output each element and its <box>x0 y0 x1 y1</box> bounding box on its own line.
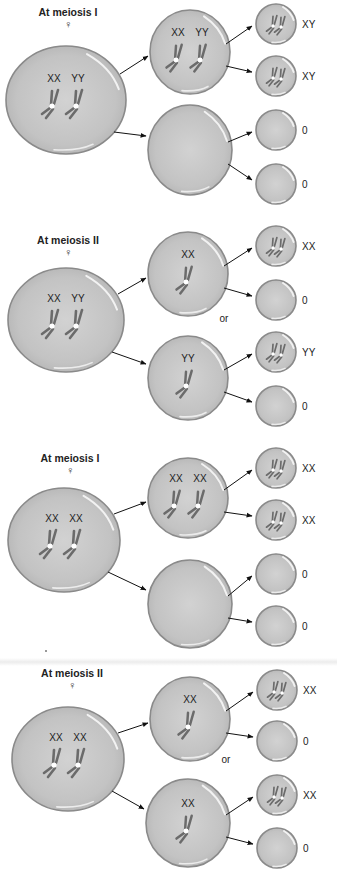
panel-divider <box>0 658 337 666</box>
daughter-cell <box>148 105 232 195</box>
arrow-icon <box>120 56 148 74</box>
arrow-icon <box>226 26 252 44</box>
arrow-icon <box>226 733 253 737</box>
chromosome-label: XX <box>183 694 197 705</box>
arrow-icon <box>118 723 148 733</box>
arrow-icon <box>108 572 146 590</box>
panel-4: At meiosis II♀XXXXXXXXXX0XX0or <box>0 655 337 870</box>
arrow-icon <box>114 132 146 136</box>
gamete-cell <box>256 4 296 44</box>
arrow-icon <box>118 278 146 294</box>
gamete-cell <box>257 670 297 710</box>
gamete-label: XX <box>302 463 316 474</box>
arrow-icon <box>228 164 252 180</box>
chromosome-label: XX <box>73 732 87 743</box>
gamete-label: YY <box>302 347 316 358</box>
daughter-cell <box>150 677 230 761</box>
chromosome-label: XX <box>181 798 195 809</box>
or-label: or <box>220 313 230 324</box>
gamete-cell <box>257 828 297 868</box>
gamete-label: 0 <box>303 736 309 747</box>
chromosome-label: XX <box>169 473 183 484</box>
parent-cell <box>6 46 126 154</box>
daughter-cell <box>148 458 228 538</box>
female-symbol-icon: ♀ <box>68 679 76 691</box>
gamete-cell <box>256 386 296 426</box>
chromosome-label: YY <box>71 73 85 84</box>
arrow-icon <box>226 66 252 72</box>
gamete-cell <box>257 721 297 761</box>
chromosome-label: XX <box>49 732 63 743</box>
gamete-label: XY <box>302 19 316 30</box>
arrow-icon <box>112 352 146 364</box>
daughter-cell <box>148 232 228 316</box>
female-symbol-icon: ♀ <box>66 464 74 476</box>
gamete-label: 0 <box>302 621 308 632</box>
panel-3: At meiosis I♀XXXXXXXXXXXX00 <box>0 440 337 655</box>
arrow-icon <box>224 288 252 296</box>
arrow-icon <box>224 470 252 490</box>
gamete-label: 0 <box>302 295 308 306</box>
arrow-icon <box>228 576 252 596</box>
female-symbol-icon: ♀ <box>64 246 72 258</box>
gamete-cell <box>256 554 296 594</box>
gamete-label: XX <box>303 790 317 801</box>
gamete-cell <box>256 500 296 540</box>
arrow-icon <box>224 354 252 370</box>
chromosome-label: YY <box>181 353 195 364</box>
arrow-icon <box>226 692 253 711</box>
parent-cell <box>12 707 124 811</box>
gamete-cell <box>256 56 296 96</box>
chromosome-label: XX <box>47 73 61 84</box>
arrow-icon <box>228 618 252 622</box>
female-symbol-icon: ♀ <box>64 18 72 30</box>
gamete-label: XY <box>302 71 316 82</box>
gamete-label: XX <box>302 515 316 526</box>
speck <box>45 650 47 652</box>
chromosome-label: XX <box>47 293 61 304</box>
gamete-cell <box>256 606 296 646</box>
gamete-cell <box>256 164 296 204</box>
gamete-cell <box>256 110 296 150</box>
gamete-label: 0 <box>302 125 308 136</box>
arrow-icon <box>112 791 144 809</box>
panel-title: At meiosis II <box>41 667 103 679</box>
arrow-icon <box>224 512 252 516</box>
chromosome-label: YY <box>195 27 209 38</box>
panel-title: At meiosis II <box>37 234 99 246</box>
gamete-cell <box>256 448 296 488</box>
gamete-label: 0 <box>302 569 308 580</box>
panel-title: At meiosis I <box>41 452 100 464</box>
parent-cell <box>8 268 124 372</box>
gamete-label: 0 <box>303 843 309 854</box>
chromosome-label: YY <box>71 293 85 304</box>
arrow-icon <box>224 248 252 266</box>
daughter-cell <box>148 560 232 648</box>
chromosome-label: XX <box>45 513 59 524</box>
gamete-label: XX <box>302 241 316 252</box>
gamete-label: XX <box>303 685 317 696</box>
panel-2: At meiosis II♀XXYYXXYYXX0YY0or <box>0 222 337 437</box>
gamete-cell <box>257 775 297 815</box>
or-label: or <box>222 754 232 765</box>
arrow-icon <box>224 392 252 402</box>
panel-title: At meiosis I <box>39 6 98 18</box>
arrow-icon <box>226 797 253 815</box>
chromosome-label: XX <box>181 249 195 260</box>
arrow-icon <box>226 837 253 844</box>
gamete-cell <box>256 226 296 266</box>
arrow-icon <box>228 132 252 142</box>
daughter-cell <box>148 336 228 420</box>
arrow-icon <box>114 502 146 514</box>
gamete-label: 0 <box>302 401 308 412</box>
parent-cell <box>8 488 120 592</box>
panel-1: At meiosis I♀XXYYXXYYXYXY00 <box>0 0 337 215</box>
daughter-cell <box>150 10 230 94</box>
daughter-cell <box>146 779 230 867</box>
chromosome-label: XX <box>69 513 83 524</box>
chromosome-label: XX <box>193 473 207 484</box>
chromosome-label: XX <box>171 27 185 38</box>
gamete-cell <box>256 332 296 372</box>
gamete-cell <box>256 280 296 320</box>
gamete-label: 0 <box>302 179 308 190</box>
